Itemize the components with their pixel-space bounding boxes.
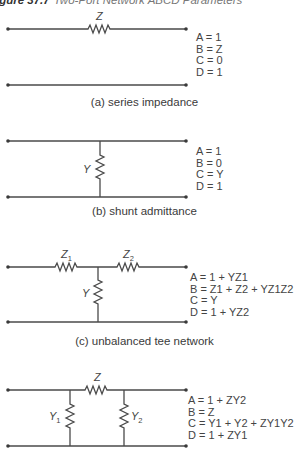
top-wire — [8, 25, 186, 33]
terminal-dot — [6, 388, 10, 392]
z2-label: Z2 — [122, 248, 134, 263]
caption-tee-network: (c) unbalanced tee network — [0, 335, 289, 347]
params-series-impedance: A = 1 B = Z C = 0 D = 1 — [196, 32, 223, 79]
terminal-dot — [6, 27, 10, 31]
y-label: Y — [82, 287, 90, 299]
terminal-dot — [184, 444, 188, 448]
terminal-dot — [6, 195, 10, 199]
param-a: A = 1 — [196, 32, 223, 44]
param-d: D = 1 — [196, 181, 224, 193]
terminal-dot — [6, 139, 10, 143]
terminal-dot — [184, 320, 188, 324]
terminal-dot — [184, 265, 188, 269]
shunt-admittance-y2 — [120, 390, 128, 446]
caption-shunt-admittance: (b) shunt admittance — [0, 205, 289, 217]
param-a: A = 1 + YZ1 — [190, 272, 293, 284]
params-pi-network: A = 1 + ZY2 B = Z C = Y1 + Y2 + ZY1Y2 D … — [188, 395, 294, 442]
y1-label: Y1 — [49, 410, 61, 425]
top-wire — [8, 386, 186, 394]
caption-series-impedance: (a) series impedance — [0, 96, 289, 108]
terminal-dot — [6, 83, 10, 87]
y2-label: Y2 — [131, 410, 143, 425]
shunt-admittance-y1 — [66, 390, 74, 446]
param-d: D = 1 — [196, 67, 223, 79]
terminal-dot — [6, 265, 10, 269]
shunt-admittance — [94, 267, 102, 322]
params-tee-network: A = 1 + YZ1 B = Z1 + Z2 + YZ1Z2 C = Y D … — [190, 272, 293, 319]
impedance-label: Z — [95, 10, 104, 22]
terminal-dot — [184, 139, 188, 143]
param-a: A = 1 + ZY2 — [188, 395, 294, 407]
terminal-dot — [184, 388, 188, 392]
top-wire — [8, 263, 186, 271]
circuit-series-impedance: Z — [0, 0, 289, 100]
terminal-dot — [6, 444, 10, 448]
params-shunt-admittance: A = 1 B = 0 C = Y D = 1 — [196, 146, 224, 193]
z1-label: Z1 — [60, 248, 72, 263]
param-d: D = 1 + ZY1 — [188, 430, 294, 442]
param-a: A = 1 — [196, 146, 224, 158]
terminal-dot — [184, 83, 188, 87]
shunt-admittance — [96, 141, 104, 197]
circuit-shunt-admittance: Y — [0, 130, 289, 210]
terminal-dot — [184, 27, 188, 31]
z-label: Z — [93, 371, 102, 383]
param-d: D = 1 + YZ2 — [190, 307, 293, 319]
admittance-label: Y — [83, 163, 91, 175]
terminal-dot — [184, 195, 188, 199]
terminal-dot — [6, 320, 10, 324]
